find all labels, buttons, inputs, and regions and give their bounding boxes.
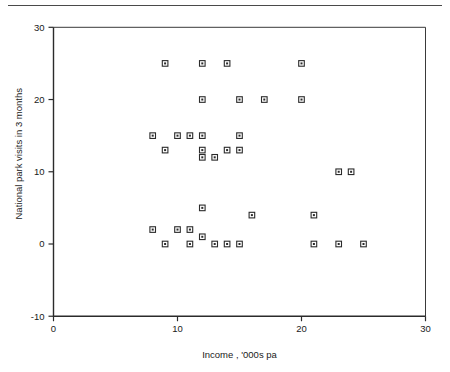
data-point: [162, 147, 168, 153]
data-point: [336, 169, 342, 175]
point-marker-core: [189, 135, 191, 137]
point-marker-core: [263, 99, 265, 101]
data-point: [237, 147, 243, 153]
data-point: [200, 147, 206, 153]
data-point: [311, 241, 317, 247]
point-marker-core: [201, 236, 203, 238]
point-marker-core: [214, 156, 216, 158]
point-marker-core: [363, 243, 365, 245]
data-point: [150, 227, 156, 233]
point-marker-core: [152, 135, 154, 137]
data-point: [212, 155, 218, 161]
x-tick-label: 20: [296, 323, 307, 334]
data-point: [162, 61, 168, 67]
data-point: [249, 212, 255, 218]
data-point: [299, 97, 305, 103]
data-point: [237, 97, 243, 103]
point-marker-core: [313, 243, 315, 245]
y-tick-label: 20: [34, 94, 45, 105]
axis-lines: [54, 27, 426, 316]
data-point: [361, 241, 367, 247]
point-marker-core: [226, 243, 228, 245]
point-marker-core: [251, 214, 253, 216]
plot-frame: [54, 27, 426, 316]
scatter-chart: -1001020300102030 Income , '000s paNatio…: [0, 0, 450, 372]
data-point: [299, 61, 305, 67]
point-marker-core: [338, 171, 340, 173]
data-point: [200, 234, 206, 240]
point-marker-core: [239, 149, 241, 151]
data-point: [200, 133, 206, 139]
point-marker-core: [201, 156, 203, 158]
data-point: [237, 241, 243, 247]
point-marker-core: [189, 229, 191, 231]
point-marker-core: [201, 135, 203, 137]
data-point: [224, 61, 230, 67]
plot-box: [54, 27, 426, 316]
data-point: [237, 133, 243, 139]
point-marker-core: [177, 135, 179, 137]
y-axis-title: National park visits in 3 months: [13, 88, 24, 220]
point-marker-core: [301, 62, 303, 64]
point-marker-core: [239, 135, 241, 137]
data-point: [175, 227, 181, 233]
data-point: [224, 241, 230, 247]
point-marker-core: [152, 229, 154, 231]
x-tick-label: 30: [420, 323, 431, 334]
point-marker-core: [164, 149, 166, 151]
point-marker-core: [239, 243, 241, 245]
data-point: [262, 97, 268, 103]
data-point: [200, 205, 206, 211]
point-marker-core: [226, 149, 228, 151]
point-marker-core: [177, 229, 179, 231]
y-tick-label: 0: [39, 238, 44, 249]
axis-tick-labels: -1001020300102030: [31, 22, 431, 335]
point-marker-core: [301, 99, 303, 101]
data-point: [187, 241, 193, 247]
plot-canvas: -1001020300102030 Income , '000s paNatio…: [0, 0, 450, 372]
x-tick-label: 0: [51, 323, 56, 334]
point-marker-core: [214, 243, 216, 245]
data-point: [162, 241, 168, 247]
point-marker-core: [164, 62, 166, 64]
data-point: [200, 61, 206, 67]
point-marker-core: [201, 207, 203, 209]
data-points: [150, 61, 366, 247]
point-marker-core: [201, 99, 203, 101]
point-marker-core: [313, 214, 315, 216]
data-point: [175, 133, 181, 139]
data-point: [212, 241, 218, 247]
x-axis-title: Income , '000s pa: [202, 349, 277, 360]
y-tick-label: 30: [34, 22, 45, 33]
axis-titles: Income , '000s paNational park visits in…: [13, 88, 278, 360]
data-point: [200, 155, 206, 161]
point-marker-core: [226, 62, 228, 64]
data-point: [224, 147, 230, 153]
point-marker-core: [201, 62, 203, 64]
point-marker-core: [350, 171, 352, 173]
data-point: [150, 133, 156, 139]
y-tick-label: -10: [31, 311, 45, 322]
data-point: [336, 241, 342, 247]
point-marker-core: [239, 99, 241, 101]
point-marker-core: [338, 243, 340, 245]
data-point: [348, 169, 354, 175]
data-point: [311, 212, 317, 218]
data-point: [200, 97, 206, 103]
point-marker-core: [201, 149, 203, 151]
x-tick-label: 10: [172, 323, 183, 334]
data-point: [187, 227, 193, 233]
data-point: [187, 133, 193, 139]
point-marker-core: [189, 243, 191, 245]
scatter-plot-page: -1001020300102030 Income , '000s paNatio…: [0, 0, 450, 372]
axis-ticks: [49, 27, 426, 321]
point-marker-core: [164, 243, 166, 245]
y-tick-label: 10: [34, 166, 45, 177]
